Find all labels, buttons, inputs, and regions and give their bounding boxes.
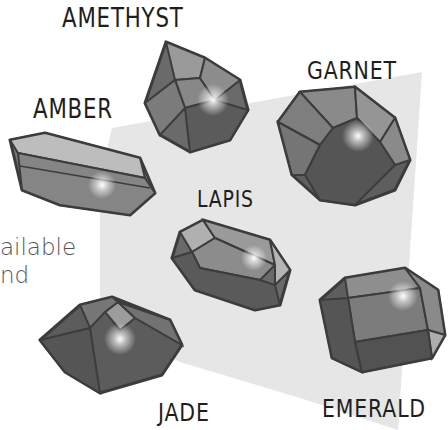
gemstone-illustration: ailable nd: [0, 0, 448, 430]
label-amethyst: AMETHYST: [62, 5, 184, 31]
label-lapis: LAPIS: [197, 188, 254, 211]
label-amber: AMBER: [33, 96, 113, 122]
emerald-gem-icon: [320, 268, 445, 372]
jade-gem-icon: [40, 297, 182, 393]
amethyst-gem-icon: [145, 42, 248, 152]
garnet-gem-icon: [278, 87, 410, 205]
label-jade: JADE: [158, 400, 210, 425]
lapis-gem-icon: [172, 220, 290, 310]
label-garnet: GARNET: [307, 58, 397, 83]
label-emerald: EMERALD: [322, 396, 426, 421]
amber-gem-icon: [10, 133, 155, 215]
